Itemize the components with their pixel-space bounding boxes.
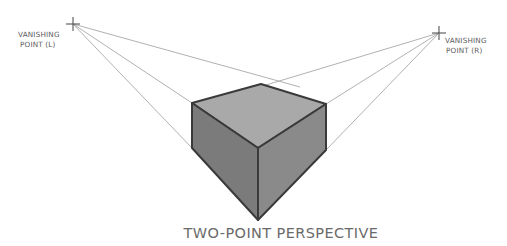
vanishing-point-left-label-line1: VANISHING [18, 30, 60, 39]
guide-line-left-to-left-bottom [73, 24, 192, 148]
vanishing-point-left-label-line2: POINT (L) [20, 40, 56, 49]
vanishing-point-right-label-line1: VANISHING [445, 36, 487, 45]
guide-line-left-to-back-top [73, 24, 300, 87]
two-point-perspective-diagram: VANISHING POINT (L) VANISHING POINT (R) … [0, 0, 507, 246]
diagram-title: TWO-POINT PERSPECTIVE [183, 225, 379, 241]
guide-line-left-to-left-top [73, 24, 192, 103]
guide-line-right-to-right-bottom [326, 33, 439, 150]
vanishing-point-right-label-line2: POINT (R) [446, 46, 483, 55]
guide-line-right-to-right-top [326, 33, 439, 104]
